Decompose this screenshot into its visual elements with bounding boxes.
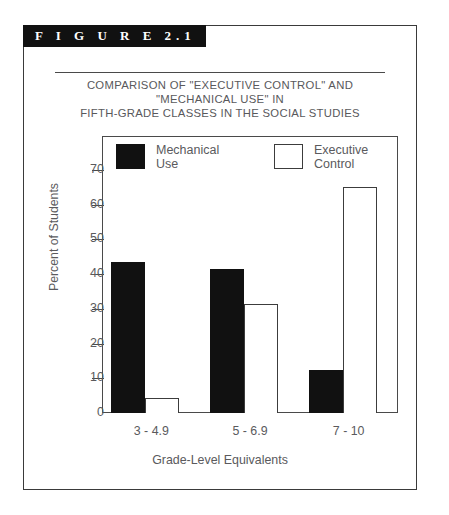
- x-tick-label-1: 3 - 4.9: [102, 424, 201, 438]
- legend-swatch-mechanical-use: [116, 144, 145, 169]
- bar-mechanical-use-2: [210, 269, 244, 413]
- legend-item-mechanical-use: Mechanical Use: [116, 143, 230, 171]
- y-tick-label-40: 40: [56, 266, 104, 280]
- y-tick-label-30: 30: [56, 301, 104, 315]
- legend-item-executive-control: Executive Control: [274, 143, 388, 171]
- y-tick-label-0: 0: [56, 405, 104, 419]
- bar-executive-control-1: [145, 398, 179, 413]
- x-axis-title: Grade-Level Equivalents: [23, 453, 417, 467]
- legend-label-mechanical-use: Mechanical Use: [156, 143, 230, 171]
- legend-label-executive-control: Executive Control: [314, 143, 388, 171]
- legend-swatch-executive-control: [274, 144, 303, 169]
- y-tick-label-50: 50: [56, 231, 104, 245]
- y-tick-label-10: 10: [56, 370, 104, 384]
- bar-mechanical-use-3: [309, 370, 343, 413]
- y-tick-label-20: 20: [56, 336, 104, 350]
- bar-mechanical-use-1: [111, 262, 145, 413]
- y-tick-label-70: 70: [56, 162, 104, 176]
- bar-executive-control-2: [244, 304, 278, 413]
- y-tick-label-60: 60: [56, 197, 104, 211]
- plot-top-border: [102, 136, 398, 137]
- x-tick-label-2: 5 - 6.9: [201, 424, 300, 438]
- bar-chart: Percent of Students 010203040506070 Mech…: [23, 25, 417, 490]
- x-tick-label-3: 7 - 10: [299, 424, 398, 438]
- chart-legend: Mechanical Use Executive Control: [116, 143, 388, 171]
- bar-executive-control-3: [343, 187, 377, 413]
